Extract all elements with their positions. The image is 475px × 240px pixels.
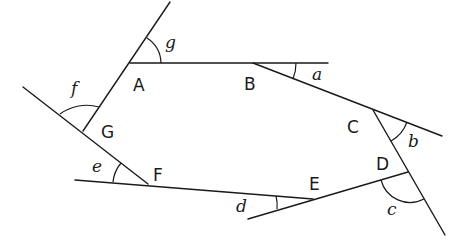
edge-ga-extended — [83, 2, 170, 131]
angle-label-b: b — [408, 131, 419, 151]
angle-label-d: d — [236, 196, 247, 216]
angle-label-a: a — [312, 64, 322, 84]
angle-label-c: c — [387, 199, 397, 219]
angle-arc-g — [147, 38, 161, 63]
angle-arc-f — [60, 105, 99, 114]
heptagon-diagram: A B C D E F G a b c d e f g — [0, 0, 475, 240]
angle-arc-a — [293, 63, 296, 79]
angle-label-g: g — [165, 32, 176, 52]
angle-arc-b — [391, 122, 407, 141]
vertex-label-f: F — [153, 165, 163, 185]
vertex-label-g: G — [101, 122, 114, 142]
angle-label-e: e — [92, 156, 102, 176]
vertex-label-a: A — [133, 75, 145, 95]
vertex-label-d: D — [376, 154, 389, 174]
edge-fg-extended — [23, 87, 148, 184]
edge-ef-extended — [75, 180, 313, 199]
angle-label-f: f — [69, 78, 80, 98]
vertex-label-b: B — [244, 74, 256, 94]
vertex-label-c: C — [347, 117, 359, 137]
angle-arc-d — [276, 196, 277, 209]
vertex-label-e: E — [309, 174, 320, 194]
angle-arc-e — [113, 163, 121, 182]
